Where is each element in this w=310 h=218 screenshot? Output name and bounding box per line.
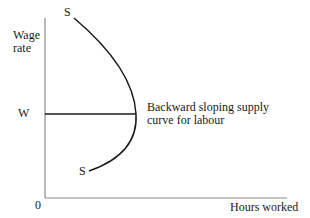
origin-label: 0 — [35, 199, 41, 212]
wage-level-label: W — [18, 107, 29, 120]
curve-annotation-line2: curve for labour — [147, 114, 269, 127]
curve-top-label: S — [64, 6, 71, 19]
supply-curve — [74, 18, 136, 171]
x-axis-label: Hours worked — [230, 201, 298, 214]
curve-annotation: Backward sloping supply curve for labour — [147, 101, 269, 127]
y-axis-label-line2: rate — [13, 42, 47, 55]
labour-supply-diagram: Wage rate W 0 Hours worked S S Backward … — [0, 0, 310, 218]
y-axis-label: Wage rate — [13, 29, 47, 55]
curve-bottom-label: S — [79, 165, 86, 178]
